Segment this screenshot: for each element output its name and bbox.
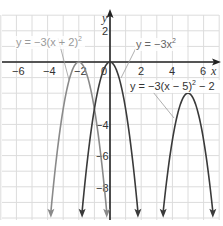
leader-line-eq3: [153, 92, 174, 118]
x-axis-label: x: [210, 64, 217, 78]
x-tick-label: −6: [12, 65, 25, 77]
equation-label-3: y = −3(x − 5)2 − 2: [130, 79, 215, 92]
equation-label-2: y = −3x2: [136, 37, 176, 50]
y-tick-label: −8: [96, 182, 109, 194]
equation-label-1: y = −3(x + 2)2: [16, 35, 82, 48]
parabola-chart: x y −6 −4 −2 0 2 4 6 2 −4 −6 −8 y = −3(x…: [0, 0, 223, 226]
x-tick-label: 2: [138, 65, 144, 77]
y-tick-label: 2: [102, 25, 108, 37]
x-tick-label: 4: [169, 65, 175, 77]
y-tick-label: −6: [96, 150, 109, 162]
y-axis-label: y: [101, 11, 108, 25]
x-tick-label: −4: [43, 65, 56, 77]
leader-line-eq2: [121, 48, 136, 78]
x-tick-label: 6: [200, 65, 206, 77]
